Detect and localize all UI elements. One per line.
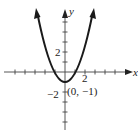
x-tick-label-2: 2 (82, 72, 88, 84)
vertex-label-close: −1) (82, 85, 98, 98)
curve-left-arrow-icon (34, 8, 41, 19)
y-axis-label: y (68, 5, 74, 17)
parabola-graph: x y 2 −2 2 (0, −1) (0, 0, 138, 132)
x-axis-arrow-icon (125, 69, 133, 75)
x-axis (4, 70, 130, 75)
y-tick-label-neg2: −2 (47, 88, 59, 100)
y-tick-label-2: 2 (55, 46, 61, 58)
vertex-label-open: (0, (67, 85, 79, 98)
y-axis-arrow-icon (62, 9, 68, 18)
curve-right-arrow-icon (90, 8, 97, 19)
x-axis-label: x (132, 66, 138, 78)
